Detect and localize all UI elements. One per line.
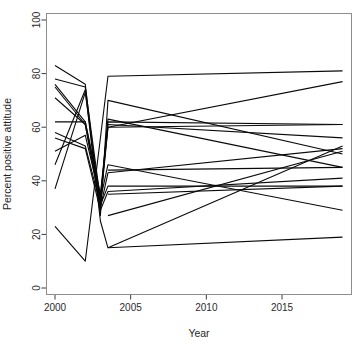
y-tick-label: 80: [31, 68, 42, 80]
x-tick-label: 2005: [120, 302, 143, 313]
x-tick-label: 2010: [195, 302, 218, 313]
y-tick-label: 40: [31, 175, 42, 187]
y-tick-label: 20: [31, 228, 42, 240]
y-axis-tick-labels: 020406080100: [31, 11, 42, 291]
y-tick-label: 0: [31, 285, 42, 291]
x-tick-label: 2000: [44, 302, 67, 313]
y-tick-label: 60: [31, 121, 42, 133]
series-lines: [55, 66, 343, 262]
y-axis-ticks: [42, 20, 47, 288]
x-axis-tick-labels: 2000200520102015: [44, 302, 294, 313]
chart-svg: 020406080100 2000200520102015 Year Perce…: [0, 0, 362, 346]
y-tick-label: 100: [31, 11, 42, 28]
x-tick-label: 2015: [271, 302, 294, 313]
x-axis-title: Year: [188, 327, 210, 339]
x-axis-ticks: [55, 295, 282, 300]
y-axis-title: Percent positive attitude: [1, 98, 13, 210]
series-line: [55, 71, 343, 261]
axis-lines: [47, 20, 283, 295]
chart-container: 020406080100 2000200520102015 Year Perce…: [0, 0, 362, 346]
